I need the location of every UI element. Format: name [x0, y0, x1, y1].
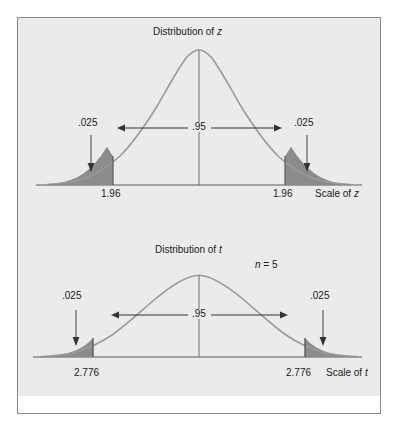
t-right-tail-area-label: .025: [310, 291, 329, 301]
t-left-critical-value-label: 2.776: [74, 368, 99, 378]
t-left-tail-area-label: .025: [62, 291, 81, 301]
t-central-area-label: .95: [190, 309, 208, 319]
t-right-critical-value-label: 2.776: [286, 368, 311, 378]
t-axis-label: Scale of t: [326, 368, 368, 378]
figure-container: Distribution of z .025 .025 .95 1.96 1.9…: [0, 0, 397, 434]
z-right-critical-value-label: 1.96: [273, 189, 292, 199]
figure-panel: [18, 18, 380, 396]
z-axis-label: Scale of z: [315, 189, 359, 199]
z-central-area-label: .95: [190, 122, 208, 132]
t-chart-title: Distribution of t: [155, 245, 222, 255]
z-chart-title: Distribution of z: [153, 27, 222, 37]
z-left-critical-value-label: 1.96: [101, 189, 120, 199]
t-sample-size-note: n = 5: [255, 260, 278, 270]
z-left-tail-area-label: .025: [78, 118, 97, 128]
z-right-tail-area-label: .025: [294, 118, 313, 128]
